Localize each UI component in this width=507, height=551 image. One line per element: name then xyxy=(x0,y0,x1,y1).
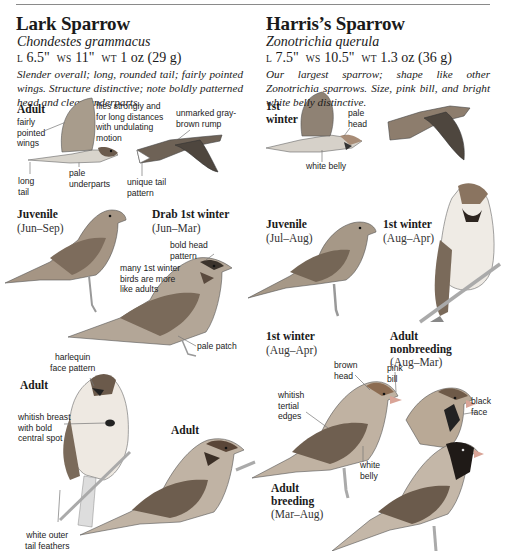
label-line: nonbreeding xyxy=(390,343,452,356)
note-line: brown xyxy=(334,360,357,371)
figure-label-lark-adult-front: Adult xyxy=(20,379,48,392)
note-line: whitish breast xyxy=(18,412,71,423)
harris-first-winter-front-illustration xyxy=(420,183,500,322)
wingspan-value: 10.5" xyxy=(324,50,354,65)
note-line: pink xyxy=(387,363,403,374)
note-many-first-winter: many 1st winter birds are more like adul… xyxy=(120,263,180,295)
figure-dates-harris-adult-breeding: (Mar–Aug) xyxy=(271,508,323,521)
length-label: L xyxy=(266,54,272,64)
note-line: face pattern xyxy=(50,363,95,374)
note-line: central spot xyxy=(18,433,71,444)
label-line: 1st xyxy=(266,100,298,113)
note-line: tertial xyxy=(278,401,304,412)
note-bold-head: bold head pattern xyxy=(170,240,208,261)
note-line: head xyxy=(348,119,367,130)
note-pale-head: pale head xyxy=(348,108,367,129)
lark-adult-front-illustration xyxy=(60,374,130,527)
note-black-face: black face xyxy=(471,396,491,417)
figure-label-harris-adult-breeding: Adult breeding xyxy=(271,482,314,508)
note-line: harlequin xyxy=(50,352,95,363)
label-line: winter xyxy=(266,113,298,126)
note-line: white outer xyxy=(25,530,69,541)
figure-label-harris-adult-nonbreeding: Adult nonbreeding xyxy=(390,330,452,356)
note-line: pattern xyxy=(170,251,208,262)
note-line: many 1st winter xyxy=(120,263,180,274)
note-line: white xyxy=(360,460,380,471)
label-line: breeding xyxy=(271,495,314,508)
description-harris: Our largest sparrow; shape like other Zo… xyxy=(266,67,490,109)
measurements-harris: L 7.5" WS 10.5" WT 1.3 oz (36 g) xyxy=(266,50,452,67)
wingspan-label: WS xyxy=(306,54,321,64)
scientific-name-harris: Zonotrichia querula xyxy=(266,34,379,49)
figure-dates-harris-first-winter-front: (Aug–Apr) xyxy=(383,232,434,245)
figure-label-harris-juvenile: Juvenile xyxy=(266,218,307,231)
label-line: Adult xyxy=(390,330,452,343)
note-whitish-tertial: whitish tertial edges xyxy=(278,390,304,422)
note-line: belly xyxy=(360,471,380,482)
length-value: 7.5" xyxy=(276,50,299,65)
note-line: like adults xyxy=(120,284,180,295)
note-white-outer-tail: white outer tail feathers xyxy=(25,530,69,551)
label-line: Adult xyxy=(271,482,314,495)
figure-label-lark-drab-first-winter: Drab 1st winter xyxy=(152,208,229,221)
harris-flight-illustration xyxy=(388,106,470,160)
note-pink-bill: pink bill xyxy=(387,363,403,384)
note-line: edges xyxy=(278,411,304,422)
note-brown-head: brown head xyxy=(334,360,357,381)
note-pale-patch: pale patch xyxy=(197,341,237,352)
note-line: face xyxy=(471,407,491,418)
weight-value: 1.3 oz (36 g) xyxy=(380,50,452,65)
figure-dates-lark-drab-first-winter: (Jun–Mar) xyxy=(152,222,201,235)
note-line: bold head xyxy=(170,240,208,251)
lark-adult-flight-illustration xyxy=(28,98,118,163)
lark-flight-tail-illustration xyxy=(137,135,222,172)
figure-dates-harris-first-winter-side: (Aug–Apr) xyxy=(266,344,317,357)
figure-label-harris-first-winter-side: 1st winter xyxy=(266,330,315,343)
figure-label-harris-first-winter-flight: 1st winter xyxy=(266,100,298,126)
note-line: bill xyxy=(387,374,403,385)
note-whitish-breast: whitish breast with bold central spot xyxy=(18,412,71,444)
note-line: tail feathers xyxy=(25,541,69,551)
note-white-belly-flight: white belly xyxy=(306,161,346,172)
figure-label-lark-juvenile: Juvenile xyxy=(17,208,58,221)
figure-dates-harris-juvenile: (Jul–Aug) xyxy=(266,232,313,245)
note-line: birds are more xyxy=(120,274,180,285)
species-title-harris: Harris’s Sparrow xyxy=(266,14,405,34)
figure-label-harris-first-winter-front: 1st winter xyxy=(383,218,432,231)
note-line: with bold xyxy=(18,423,71,434)
note-line: black xyxy=(471,396,491,407)
figure-dates-lark-juvenile: (Jun–Sep) xyxy=(17,222,64,235)
note-line: pale xyxy=(348,108,367,119)
note-harlequin: harlequin face pattern xyxy=(50,352,95,373)
note-line: head xyxy=(334,371,357,382)
harris-adult-nonbreeding-illustration xyxy=(406,388,476,448)
note-line: whitish xyxy=(278,390,304,401)
figure-label-lark-adult-side: Adult xyxy=(171,424,199,437)
note-white-belly: white belly xyxy=(360,460,380,481)
weight-label: WT xyxy=(361,54,376,64)
